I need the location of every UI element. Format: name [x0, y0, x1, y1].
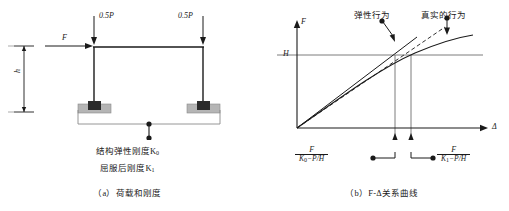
formula-elastic-drift: F K0−P/H — [295, 146, 328, 164]
annotation-label-elastic: 弹性行为 — [354, 8, 390, 20]
panel-b-caption: （b）F-Δ关系曲线 — [255, 186, 509, 198]
y-axis-label: F — [301, 17, 306, 26]
x-axis-label: Δ — [492, 122, 497, 131]
formula-postyield-drift: F K1−P/H — [437, 146, 470, 164]
formula-elastic-den-tail: −P/H — [307, 154, 324, 163]
level-label-H: H — [283, 49, 289, 58]
leader-dot-bottom — [146, 135, 151, 140]
base-support-left — [78, 101, 111, 113]
height-dimension — [14, 46, 34, 112]
panel-force-displacement-curve: F Δ H 弹性行为 真实的行为 F K0−P/H F K1−P/H （b）F-… — [255, 0, 509, 211]
base-support-right — [187, 101, 220, 113]
vertical-load-left-label: 0.5P — [99, 11, 114, 20]
annotation-leader-elastic — [383, 22, 395, 42]
figure-container: F 0.5P 0.5P h 结构弹性刚度K0 屈服后刚度K1 （a）荷载和刚度 — [0, 0, 509, 211]
series-secant-dashed — [297, 27, 445, 128]
vertical-load-arrow-right — [200, 16, 206, 45]
chart-axes — [297, 26, 481, 128]
formula-pointer-left — [392, 133, 398, 140]
formula-pointer-right — [408, 133, 414, 140]
formula-dot-right — [430, 155, 435, 160]
y-axis-arrowhead — [294, 20, 300, 28]
height-dimension-label: h — [13, 69, 22, 73]
series-real-curve — [297, 35, 473, 128]
annotation-label-real: 真实的行为 — [421, 8, 466, 20]
formula-postyield-den-tail: −P/H — [449, 154, 466, 163]
lateral-force-arrow — [45, 43, 93, 49]
x-axis-arrowhead — [480, 125, 488, 131]
formula-dot-left — [370, 155, 375, 160]
postyield-stiffness-text: 屈服后刚度K — [100, 163, 151, 173]
formula-elastic-denominator: K0−P/H — [295, 155, 328, 163]
formula-postyield-numerator: F — [437, 146, 470, 154]
panel-load-and-stiffness: F 0.5P 0.5P h 结构弹性刚度K0 屈服后刚度K1 （a）荷载和刚度 — [0, 0, 255, 211]
series-elastic-line — [297, 37, 417, 128]
lateral-force-label: F — [62, 33, 67, 42]
formula-elastic-numerator: F — [295, 146, 328, 154]
leader-dot-top — [146, 121, 151, 126]
postyield-stiffness-note: 屈服后刚度K1 — [0, 161, 255, 173]
frame-diagram — [0, 0, 255, 140]
elastic-stiffness-note: 结构弹性刚度K0 — [0, 144, 255, 156]
postyield-stiffness-subscript: 1 — [152, 167, 155, 173]
vertical-load-arrow-left — [91, 16, 97, 45]
panel-a-caption: （a）荷载和刚度 — [0, 186, 255, 198]
formula-postyield-denominator: K1−P/H — [437, 155, 470, 163]
vertical-load-right-label: 0.5P — [178, 11, 193, 20]
portal-frame — [93, 47, 204, 106]
force-displacement-chart — [255, 0, 509, 140]
elastic-stiffness-subscript: 0 — [156, 150, 159, 156]
elastic-stiffness-text: 结构弹性刚度K — [96, 146, 156, 156]
